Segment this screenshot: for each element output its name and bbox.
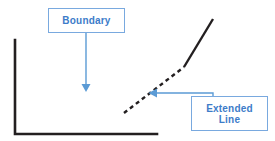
boundary-arrow-icon [82,84,91,92]
callout-extended-line-label: Extended Line [206,103,253,125]
extended-line-dashed-segment [124,67,184,113]
callout-extended-line: Extended Line [191,96,268,131]
callout-boundary: Boundary [48,8,125,33]
extended-line-solid-segment [184,19,213,67]
extended-line-arrow-icon [149,89,158,98]
callout-boundary-label: Boundary [62,15,110,26]
diagram-canvas: Boundary Extended Line [0,0,275,141]
